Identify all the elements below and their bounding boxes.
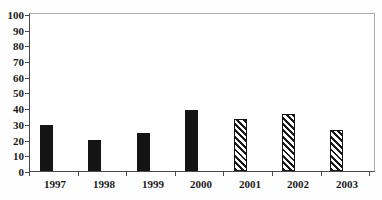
- y-axis-tick-80: [25, 46, 29, 47]
- y-axis-label-80: 80: [0, 39, 24, 53]
- y-axis-tick-90: [25, 31, 29, 32]
- y-axis-tick-10: [25, 156, 29, 157]
- bar-2003: [330, 130, 343, 171]
- y-axis-label-60: 60: [0, 71, 24, 85]
- bar-1997: [40, 125, 53, 171]
- x-axis-label-1999: 1999: [142, 178, 164, 190]
- y-axis-label-100: 100: [0, 8, 24, 22]
- x-axis-tick-6: [321, 172, 322, 176]
- y-axis-tick-30: [25, 125, 29, 126]
- x-axis-tick-0: [29, 172, 30, 176]
- x-axis-label-1997: 1997: [44, 178, 66, 190]
- x-axis-label-2000: 2000: [190, 178, 212, 190]
- y-axis-tick-60: [25, 78, 29, 79]
- y-axis-label-40: 40: [0, 102, 24, 116]
- y-axis-label-0: 0: [0, 165, 24, 179]
- x-axis-label-2003: 2003: [336, 178, 358, 190]
- y-axis-tick-100: [25, 15, 29, 16]
- plot-area: [29, 13, 375, 172]
- x-axis-tick-7: [369, 172, 370, 176]
- x-axis-label-2002: 2002: [287, 178, 309, 190]
- x-axis-tick-1: [78, 172, 79, 176]
- x-axis-label-2001: 2001: [239, 178, 261, 190]
- x-axis-tick-4: [223, 172, 224, 176]
- y-axis-tick-50: [25, 93, 29, 94]
- bar-1998: [88, 140, 101, 171]
- y-axis-tick-40: [25, 109, 29, 110]
- x-axis-label-1998: 1998: [93, 178, 115, 190]
- x-axis-tick-2: [126, 172, 127, 176]
- y-axis-label-70: 70: [0, 55, 24, 69]
- y-axis-label-10: 10: [0, 149, 24, 163]
- x-axis-tick-3: [175, 172, 176, 176]
- y-axis-tick-20: [25, 141, 29, 142]
- bar-chart: 0102030405060708090100199719981999200020…: [0, 0, 382, 200]
- y-axis-label-90: 90: [0, 24, 24, 38]
- bar-1999: [137, 133, 150, 171]
- bar-2002: [282, 114, 295, 171]
- bar-2000: [185, 110, 198, 171]
- y-axis-label-30: 30: [0, 118, 24, 132]
- x-axis-tick-5: [272, 172, 273, 176]
- y-axis-label-20: 20: [0, 134, 24, 148]
- y-axis-tick-70: [25, 62, 29, 63]
- y-axis-label-50: 50: [0, 86, 24, 100]
- bar-2001: [234, 119, 247, 171]
